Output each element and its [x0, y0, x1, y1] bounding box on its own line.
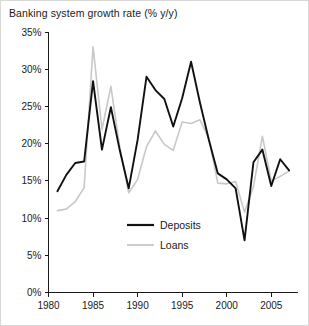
y-tick-label: 15% [21, 175, 41, 186]
y-axis-tick-group: 0%5%10%15%20%25%30%35% [21, 27, 48, 299]
legend-label-deposits: Deposits [160, 219, 201, 231]
y-tick-label: 5% [27, 250, 42, 261]
x-tick-label: 1990 [126, 300, 149, 311]
y-tick-label: 35% [21, 27, 41, 38]
x-tick-label: 1985 [82, 300, 105, 311]
x-axis-tick-group: 198019851990199520002005 [37, 293, 282, 311]
series-line-loans [57, 47, 289, 212]
data-series-group [57, 47, 289, 241]
y-tick-label: 30% [21, 64, 41, 75]
legend-label-loans: Loans [160, 239, 189, 251]
y-tick-label: 0% [27, 287, 42, 298]
line-chart-plot: 0%5%10%15%20%25%30%35% 19801985199019952… [1, 1, 309, 326]
y-tick-label: 10% [21, 213, 41, 224]
chart-figure: Banking system growth rate (% y/y) 0%5%1… [0, 0, 309, 326]
y-tick-label: 25% [21, 101, 41, 112]
x-tick-label: 1980 [37, 300, 60, 311]
chart-legend: DepositsLoans [127, 219, 201, 251]
x-tick-label: 2000 [216, 300, 239, 311]
x-tick-label: 1995 [171, 300, 194, 311]
x-tick-label: 2005 [260, 300, 283, 311]
y-tick-label: 20% [21, 138, 41, 149]
